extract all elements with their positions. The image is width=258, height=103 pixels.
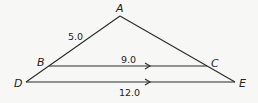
point-label-D: D <box>14 77 22 90</box>
measure-AB: 5.0 <box>68 31 83 42</box>
segment-AD <box>26 16 120 82</box>
measure-DE: 12.0 <box>119 87 140 98</box>
triangle-diagram: A B C D E 5.0 9.0 12.0 <box>0 0 258 103</box>
point-label-E: E <box>239 77 246 90</box>
point-label-B: B <box>37 56 45 69</box>
segment-AE <box>120 16 235 82</box>
point-label-C: C <box>211 57 219 70</box>
point-label-A: A <box>115 2 124 15</box>
measure-BC: 9.0 <box>121 54 136 65</box>
